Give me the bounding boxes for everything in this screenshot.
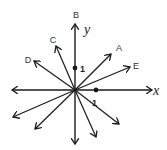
x-unit-dot (94, 88, 99, 93)
label-a: A (116, 43, 122, 53)
label-b: B (73, 10, 79, 20)
x-unit-label: 1 (92, 98, 97, 108)
vector-diagram: B C D A E y x 1 1 (0, 0, 167, 150)
label-c: C (50, 35, 57, 45)
y-unit-dot (73, 66, 78, 71)
vector-neg-e (13, 90, 75, 117)
y-axis-label: y (82, 22, 91, 37)
label-e: E (133, 61, 139, 71)
vector-neg-a (35, 90, 75, 129)
y-unit-label: 1 (80, 64, 85, 74)
x-axis-label: x (152, 83, 160, 98)
label-d: D (25, 55, 32, 65)
